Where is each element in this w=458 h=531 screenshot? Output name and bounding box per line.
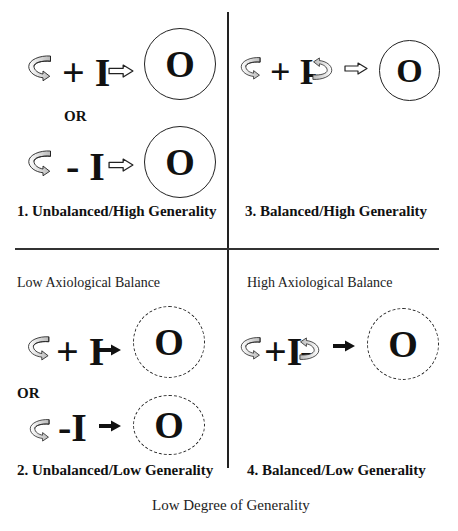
quadrant-label: 1. Unbalanced/High Generality — [17, 203, 217, 220]
solid-right-arrow-icon — [98, 420, 122, 432]
output-circle: O — [379, 40, 440, 101]
or-separator: OR — [64, 108, 87, 125]
curved-arrow-icon — [309, 50, 335, 88]
curved-arrow-icon — [27, 412, 53, 448]
or-separator: OR — [17, 385, 40, 402]
curved-arrow-icon — [238, 50, 264, 86]
output-symbol: O — [388, 322, 418, 366]
hollow-right-arrow-icon — [344, 62, 368, 75]
quadrant-label: 4. Balanced/Low Generality — [247, 462, 426, 479]
output-symbol: O — [154, 403, 184, 447]
input-symbol: + I — [62, 53, 110, 93]
output-circle: O — [144, 126, 216, 198]
quadrant-label: 2. Unbalanced/Low Generality — [17, 462, 213, 479]
axis-label-right: High Axiological Balance — [247, 275, 392, 291]
input-symbol: -I — [58, 408, 87, 448]
quadrant-label: 3. Balanced/High Generality — [245, 203, 427, 220]
curved-arrow-icon — [238, 330, 264, 366]
output-circle: O — [133, 306, 205, 378]
solid-right-arrow-icon — [332, 340, 356, 352]
solid-right-arrow-icon — [98, 344, 122, 356]
output-symbol: O — [396, 52, 422, 90]
output-symbol: O — [165, 140, 195, 184]
vertical-divider — [227, 12, 229, 468]
bottom-axis-label: Low Degree of Generality — [152, 497, 310, 514]
output-symbol: O — [154, 320, 184, 364]
output-circle: O — [133, 395, 205, 455]
curved-arrow-icon — [25, 145, 55, 181]
hollow-right-arrow-icon — [108, 64, 134, 78]
curved-arrow-icon — [296, 330, 322, 368]
hollow-right-arrow-icon — [108, 158, 134, 172]
output-symbol: O — [165, 42, 195, 86]
output-circle: O — [367, 308, 439, 380]
curved-arrow-icon — [25, 330, 53, 366]
axis-label-left: Low Axiological Balance — [17, 275, 160, 291]
curved-arrow-icon — [25, 50, 55, 86]
horizontal-divider — [15, 248, 439, 250]
input-symbol: - I — [66, 147, 105, 187]
output-circle: O — [144, 28, 216, 100]
